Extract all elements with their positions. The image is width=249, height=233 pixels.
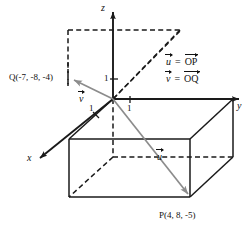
legend-u-definition: u=OP: [166, 57, 197, 67]
legend-v-symbol: v: [166, 74, 170, 84]
vector-u-label: u: [157, 152, 162, 162]
legend-v-definition: v=OQ: [166, 74, 199, 84]
legend-u-target: OP: [185, 57, 198, 67]
axes: [40, 12, 239, 158]
x-axis-label: x: [27, 153, 31, 163]
legend-v-target: OQ: [184, 74, 198, 84]
vector-v-label: v: [79, 94, 83, 104]
point-q-label: Q(-7, -8, -4): [9, 73, 53, 82]
y-axis-tick-label: 1: [127, 104, 132, 113]
legend-u-equals: =: [175, 56, 181, 67]
p-box-right-receding-edge: [190, 99, 233, 139]
z-axis-tick-label: 1: [104, 74, 109, 83]
vector-v-glyph: v: [79, 94, 83, 104]
z-axis-label: z: [101, 3, 105, 13]
y-axis-label: y: [237, 101, 241, 111]
x-axis-tick-label: 1: [89, 104, 94, 113]
p-box-bottom-right-receding-edge: [190, 157, 233, 197]
vector-u-arrow: [113, 99, 188, 194]
vector-u-glyph: u: [157, 152, 162, 162]
point-p-label: P(4, 8, -5): [159, 211, 196, 220]
legend-v-equals: =: [174, 73, 180, 84]
x-axis: [40, 99, 113, 158]
p-box-front-face: [69, 139, 190, 197]
p-box-hidden-left-bottom-edge: [69, 157, 113, 197]
legend-u-symbol: u: [166, 57, 171, 67]
vector-diagram: [0, 0, 249, 233]
